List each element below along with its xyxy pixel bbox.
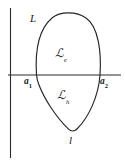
region-lower-subscript: h (66, 98, 69, 105)
contour-label-upper: L (30, 13, 36, 24)
axis-point-label-right: a2 (100, 77, 108, 88)
region-label-upper: ℒe (55, 47, 66, 62)
contour-curve (36, 13, 100, 131)
region-upper-symbol: ℒ (55, 46, 64, 60)
region-upper-subscript: e (64, 56, 67, 63)
figure-container: L l ℒe ℒh a1 a2 (0, 0, 125, 165)
axis-point-label-left: a1 (24, 77, 32, 88)
region-label-lower: ℒh (57, 89, 69, 104)
axis-point-right-subscript: 2 (105, 82, 108, 89)
contour-label-lower: l (69, 135, 72, 146)
axis-point-left-subscript: 1 (29, 82, 32, 89)
region-lower-symbol: ℒ (57, 88, 66, 102)
